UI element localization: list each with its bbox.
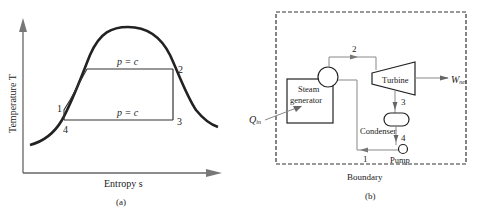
steam-generator-label-2: generator: [290, 95, 322, 105]
state-2-label-b: 2: [352, 44, 357, 54]
state-4-label: 4: [63, 124, 68, 135]
work-arrow-icon: [440, 76, 449, 81]
pump: [399, 145, 408, 154]
x-axis-arrow-icon: [206, 169, 222, 177]
heat-in-line: [265, 107, 299, 120]
turbine-label: Turbine: [382, 75, 409, 85]
isobar-low-label: p = c: [116, 107, 139, 118]
heat-in-label: Qin: [249, 114, 261, 125]
saturation-dome: [30, 27, 218, 145]
ts-diagram: p = c p = c 2 3 1 4 Temperature T Entrop…: [7, 18, 222, 207]
flow-arrow-2-icon: [350, 55, 358, 60]
state-1-label: 1: [57, 103, 62, 114]
state-3-label-b: 3: [401, 97, 406, 107]
y-axis-label: Temperature T: [7, 74, 18, 133]
state-4-label-b: 4: [401, 133, 406, 143]
panel-b-caption: (b): [365, 191, 376, 201]
isobar-high-label: p = c: [116, 56, 139, 67]
steam-drum: [318, 67, 338, 87]
rankine-schematic: Boundary (b) Steam generator Turbine Wne…: [249, 12, 467, 201]
state-2-label: 2: [178, 64, 183, 75]
compression-heating-line: [64, 69, 87, 120]
state-3-label: 3: [177, 116, 182, 127]
panel-a-caption: (a): [116, 197, 126, 207]
y-axis-arrow-icon: [19, 18, 27, 32]
condenser: [384, 113, 409, 126]
steam-generator-label-1: Steam: [298, 84, 320, 94]
work-out-label: Wnet: [451, 74, 467, 85]
boundary-label: Boundary: [347, 172, 383, 182]
condenser-label: Condenser: [360, 126, 397, 136]
flow-arrow-1-icon: [360, 148, 368, 153]
state-1-label-b: 1: [363, 154, 368, 164]
pipe-2: [329, 57, 376, 70]
pump-label: Pump: [390, 155, 410, 165]
x-axis-label: Entropy s: [104, 178, 143, 189]
flow-arrow-3-icon: [393, 102, 398, 110]
flow-arrow-4-icon: [394, 135, 399, 142]
